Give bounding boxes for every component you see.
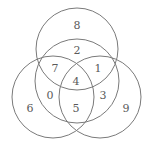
region-label: 2	[74, 44, 81, 57]
region-label: 5	[73, 102, 80, 115]
venn-diagram: 8 2 7 1 4 0 3 6 5 9	[0, 0, 151, 150]
region-label: 1	[95, 62, 102, 75]
region-label: 8	[74, 19, 81, 32]
region-label: 3	[100, 89, 107, 102]
region-label: 6	[27, 102, 34, 115]
region-label: 4	[73, 75, 80, 88]
region-label: 7	[52, 62, 59, 75]
region-label: 0	[47, 89, 54, 102]
region-label: 9	[123, 102, 130, 115]
